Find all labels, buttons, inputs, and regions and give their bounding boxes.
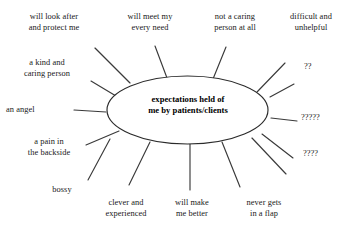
- spoke-label-question-marks-2: ??: [304, 62, 342, 73]
- spoke-line-clever-and-experienced: [129, 142, 150, 185]
- spoke-label-a-kind-and-caring-person: a kind and caring person: [6, 58, 88, 79]
- spoke-label-question-marks-4: ????: [303, 149, 345, 160]
- spoke-label-never-gets-in-a-flap: never gets in a flap: [228, 198, 300, 219]
- spoke-line-spoke-lower-right-extra: [252, 138, 286, 174]
- spoke-line-not-a-caring-person-at-all: [213, 47, 226, 79]
- spoke-label-will-look-after-and-protect-me: will look after and protect me: [8, 12, 100, 33]
- center-label: expectations held of me by patients/clie…: [118, 94, 258, 117]
- spoke-line-bossy: [88, 139, 110, 180]
- spoke-line-will-look-after-and-protect-me: [95, 48, 130, 83]
- spoke-label-not-a-caring-person-at-all: not a caring person at all: [194, 12, 276, 33]
- spoke-label-a-pain-in-the-backside: a pain in the backside: [8, 137, 90, 158]
- spoke-line-difficult-and-unhelpful: [257, 63, 285, 92]
- spoke-line-never-gets-in-a-flap: [222, 142, 240, 187]
- spoke-line-question-marks-5: [271, 118, 297, 121]
- spoke-line-will-meet-my-every-need: [155, 46, 167, 78]
- spoke-line-a-kind-and-caring-person: [91, 81, 116, 96]
- spoke-line-an-angel: [74, 110, 106, 112]
- spoke-line-question-marks-4: [262, 134, 293, 158]
- spoke-label-question-marks-5: ?????: [301, 113, 347, 124]
- spoke-label-difficult-and-unhelpful: difficult and unhelpful: [272, 12, 349, 33]
- spoke-label-an-angel: an angel: [6, 105, 66, 116]
- spoke-label-will-meet-my-every-need: will meet my every need: [108, 12, 192, 33]
- spoke-label-will-make-me-better: will make me better: [158, 198, 226, 219]
- spoke-label-bossy: bossy: [38, 185, 86, 196]
- spoke-label-clever-and-experienced: clever and experienced: [84, 198, 168, 219]
- spoke-line-question-marks-2: [270, 84, 294, 97]
- spoke-line-a-pain-in-the-backside: [86, 131, 119, 145]
- radial-expectations-diagram: expectations held of me by patients/clie…: [0, 0, 349, 236]
